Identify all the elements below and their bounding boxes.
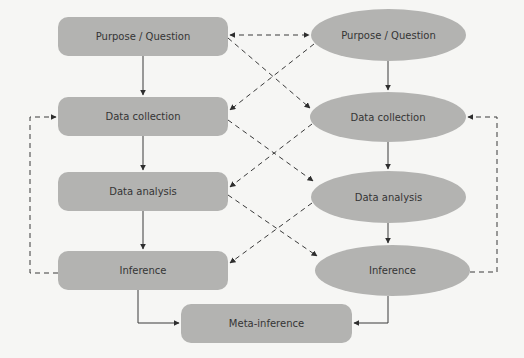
dashed-feedback-left — [30, 117, 58, 273]
dashed-feedback-right — [468, 117, 497, 272]
dashed-l2-r3 — [228, 120, 313, 181]
left-node-data-collection: Data collection — [58, 97, 228, 136]
dashed-r1-l2 — [230, 44, 314, 110]
right-node-inference: Inference — [315, 245, 470, 296]
node-label: Inference — [369, 265, 416, 276]
left-node-inference: Inference — [58, 251, 228, 290]
arrow-l4-meta — [138, 290, 179, 323]
node-label: Data collection — [350, 112, 425, 123]
arrow-r4-meta — [354, 296, 388, 323]
diagram-canvas: Purpose / Question Data collection Data … — [0, 0, 524, 358]
right-node-data-collection: Data collection — [310, 92, 466, 142]
left-node-data-analysis: Data analysis — [58, 172, 228, 211]
dashed-l3-r4 — [228, 195, 317, 256]
dashed-l1-r2 — [228, 38, 310, 108]
node-label: Purpose / Question — [96, 31, 191, 42]
dashed-r2-l3 — [230, 124, 312, 187]
node-label: Data analysis — [355, 192, 423, 203]
meta-inference-node: Meta-inference — [181, 304, 352, 343]
dashed-r3-l4 — [230, 203, 312, 263]
node-label: Purpose / Question — [341, 30, 436, 41]
node-label: Data analysis — [109, 186, 177, 197]
right-node-data-analysis: Data analysis — [311, 171, 466, 223]
node-label: Data collection — [105, 111, 180, 122]
right-node-purpose-question: Purpose / Question — [311, 9, 466, 61]
node-label: Meta-inference — [229, 318, 304, 329]
node-label: Inference — [120, 265, 167, 276]
left-node-purpose-question: Purpose / Question — [58, 17, 228, 56]
